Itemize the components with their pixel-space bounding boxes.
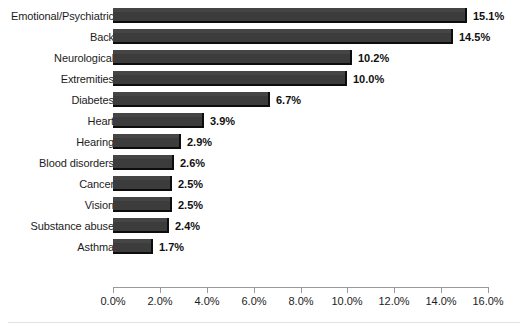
bar-value-label: 14.5% bbox=[459, 29, 490, 46]
bar-fill bbox=[113, 197, 172, 212]
bar-fill bbox=[113, 176, 172, 191]
bar[interactable] bbox=[113, 29, 453, 46]
x-axis-tick bbox=[207, 287, 208, 293]
bar-value-label: 2.5% bbox=[178, 197, 203, 214]
category-label: Vision bbox=[85, 197, 114, 214]
bar-value-label: 2.9% bbox=[187, 134, 212, 151]
x-axis-tick bbox=[113, 287, 114, 293]
bar-row: Heart3.9% bbox=[0, 113, 528, 134]
bar-fill bbox=[113, 218, 169, 233]
bar-row: Asthma1.7% bbox=[0, 239, 528, 260]
x-axis-tick bbox=[347, 287, 348, 293]
x-axis-tick bbox=[160, 287, 161, 293]
bar-value-label: 2.6% bbox=[180, 155, 205, 172]
category-label: Hearing bbox=[76, 134, 114, 151]
x-axis-tick bbox=[441, 287, 442, 293]
bar-row: Back14.5% bbox=[0, 29, 528, 50]
bar-row: Substance abuse2.4% bbox=[0, 218, 528, 239]
bar[interactable] bbox=[113, 92, 270, 109]
category-label: Cancer bbox=[79, 176, 114, 193]
bar-fill bbox=[113, 239, 153, 254]
category-label: Substance abuse bbox=[30, 218, 114, 235]
bar-fill bbox=[113, 50, 352, 65]
bar-fill bbox=[113, 113, 204, 128]
bar-row: Extremities10.0% bbox=[0, 71, 528, 92]
bar-row: Neurological10.2% bbox=[0, 50, 528, 71]
x-axis-tick bbox=[301, 287, 302, 293]
category-label: Emotional/Psychiatric bbox=[11, 8, 114, 25]
category-label: Asthma bbox=[77, 239, 114, 256]
bar[interactable] bbox=[113, 218, 169, 235]
bar-value-label: 3.9% bbox=[210, 113, 235, 130]
bar-value-label: 15.1% bbox=[473, 8, 504, 25]
bottom-rule bbox=[8, 322, 520, 323]
bar-fill bbox=[113, 8, 467, 23]
bar-row: Hearing2.9% bbox=[0, 134, 528, 155]
bar-value-label: 10.2% bbox=[358, 50, 389, 67]
category-label: Back bbox=[90, 29, 114, 46]
category-label: Blood disorders bbox=[39, 155, 114, 172]
bar-fill bbox=[113, 134, 181, 149]
bar-value-label: 10.0% bbox=[353, 71, 384, 88]
bar-fill bbox=[113, 155, 174, 170]
bar[interactable] bbox=[113, 8, 467, 25]
bar-row: Vision2.5% bbox=[0, 197, 528, 218]
bar[interactable] bbox=[113, 134, 181, 151]
x-axis-tick bbox=[394, 287, 395, 293]
bar-row: Cancer2.5% bbox=[0, 176, 528, 197]
bar[interactable] bbox=[113, 155, 174, 172]
category-label: Heart bbox=[88, 113, 114, 130]
bar-value-label: 1.7% bbox=[159, 239, 184, 256]
x-axis-tick bbox=[254, 287, 255, 293]
bar-fill bbox=[113, 29, 453, 44]
bar[interactable] bbox=[113, 239, 153, 256]
bar[interactable] bbox=[113, 50, 352, 67]
x-axis-tick-label: 16.0% bbox=[458, 295, 518, 307]
bar-value-label: 2.5% bbox=[178, 176, 203, 193]
bar-value-label: 6.7% bbox=[276, 92, 301, 109]
category-label: Extremities bbox=[61, 71, 114, 88]
bar[interactable] bbox=[113, 113, 204, 130]
bar-row: Blood disorders2.6% bbox=[0, 155, 528, 176]
bar-row: Diabetes6.7% bbox=[0, 92, 528, 113]
bar-fill bbox=[113, 71, 347, 86]
plot-area: Emotional/Psychiatric15.1%Back14.5%Neuro… bbox=[0, 0, 528, 333]
bar-value-label: 2.4% bbox=[175, 218, 200, 235]
bar[interactable] bbox=[113, 176, 172, 193]
bar-row: Emotional/Psychiatric15.1% bbox=[0, 8, 528, 29]
x-axis-tick bbox=[488, 287, 489, 293]
bar-chart: Emotional/Psychiatric15.1%Back14.5%Neuro… bbox=[0, 0, 528, 333]
bar[interactable] bbox=[113, 197, 172, 214]
category-label: Diabetes bbox=[71, 92, 114, 109]
category-label: Neurological bbox=[54, 50, 114, 67]
bar[interactable] bbox=[113, 71, 347, 88]
bar-fill bbox=[113, 92, 270, 107]
